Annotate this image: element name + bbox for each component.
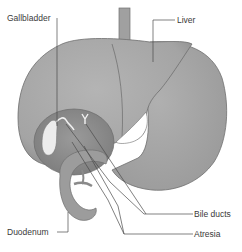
label-bile-ducts: Bile ducts xyxy=(194,210,231,219)
duodenum-leader-line xyxy=(57,212,68,232)
vena-cava xyxy=(119,8,130,42)
label-gallbladder: Gallbladder xyxy=(7,14,50,23)
label-atresia: Atresia xyxy=(194,230,220,239)
label-duodenum: Duodenum xyxy=(7,228,49,237)
label-liver: Liver xyxy=(177,16,195,25)
